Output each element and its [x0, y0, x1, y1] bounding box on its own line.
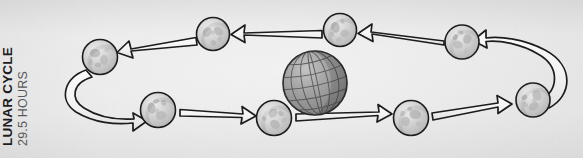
moon-disc — [445, 25, 479, 59]
arrow-top-2 — [358, 24, 444, 45]
moon-8 — [141, 93, 180, 132]
moon-4 — [445, 25, 483, 63]
moon-disc — [257, 101, 292, 136]
arrow-bottom-3 — [432, 96, 512, 121]
moon-3 — [324, 14, 361, 51]
arrow-top-1 — [231, 25, 322, 43]
moon-disc — [324, 14, 357, 47]
lunar-cycle-figure: LUNAR CYCLE 29.5 HOURS — [0, 0, 583, 158]
moon-2 — [197, 18, 234, 55]
orbit-diagram — [0, 0, 583, 158]
moon-5 — [516, 83, 554, 121]
moon-disc — [394, 101, 429, 136]
moon-7 — [257, 101, 296, 140]
moon-6 — [394, 101, 433, 140]
arrow-bottom-1 — [180, 107, 256, 125]
moon-disc — [83, 40, 118, 75]
arrow-top-3 — [117, 38, 197, 59]
arrow-left — [65, 70, 147, 131]
